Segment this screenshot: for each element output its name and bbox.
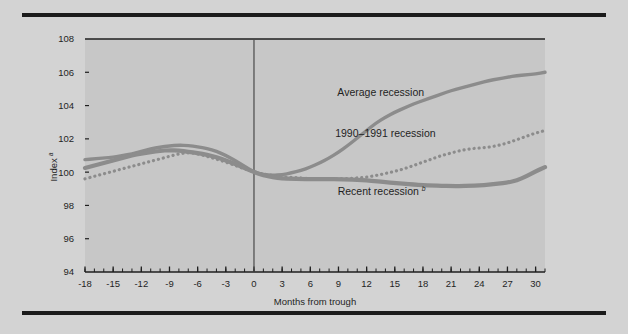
y-axis-title-superscript: a bbox=[47, 152, 54, 156]
x-tick-label: 18 bbox=[418, 278, 429, 289]
annotation-superscript: b bbox=[422, 185, 426, 192]
x-tick-label: -6 bbox=[193, 278, 201, 289]
y-tick-label: 108 bbox=[58, 33, 74, 44]
x-tick-label: 3 bbox=[279, 278, 284, 289]
x-tick-label: 30 bbox=[530, 278, 541, 289]
x-tick-label: 9 bbox=[336, 278, 341, 289]
y-axis-title-text: Indexa bbox=[47, 152, 59, 181]
recent-recession-label: Recent recessionb bbox=[338, 185, 426, 197]
x-tick-label: -3 bbox=[222, 278, 230, 289]
y-tick-label: 94 bbox=[63, 266, 74, 277]
x-axis-title-text: Months from trough bbox=[274, 296, 356, 307]
y-tick-label: 96 bbox=[63, 233, 74, 244]
y-axis-tick-labels: 949698100102104106108 bbox=[58, 33, 74, 277]
y-axis-title: Indexa bbox=[47, 152, 59, 181]
x-tick-label: 15 bbox=[390, 278, 401, 289]
x-tick-label: 24 bbox=[474, 278, 485, 289]
x-tick-label: -18 bbox=[78, 278, 92, 289]
x-tick-label: -12 bbox=[134, 278, 148, 289]
x-tick-label: 0 bbox=[251, 278, 256, 289]
y-tick-label: 102 bbox=[58, 133, 74, 144]
average-recession-label: Average recession bbox=[337, 86, 424, 98]
x-tick-label: 12 bbox=[361, 278, 372, 289]
y-tick-label: 100 bbox=[58, 167, 74, 178]
x-tick-label: 27 bbox=[502, 278, 513, 289]
chart-canvas: 949698100102104106108 -18-15-12-9-6-3036… bbox=[0, 17, 628, 311]
line-chart: 949698100102104106108 -18-15-12-9-6-3036… bbox=[0, 17, 628, 311]
bottom-rule bbox=[22, 311, 606, 315]
x-tick-label: 6 bbox=[308, 278, 313, 289]
y-tick-label: 104 bbox=[58, 100, 74, 111]
recession-1990-1991-label: 1990–1991 recession bbox=[335, 127, 436, 139]
x-tick-label: 21 bbox=[446, 278, 457, 289]
x-axis-tick-labels: -18-15-12-9-6-3036912151821242730 bbox=[78, 278, 541, 289]
plot-area-background bbox=[85, 39, 545, 272]
x-tick-label: -15 bbox=[106, 278, 120, 289]
figure-container: 949698100102104106108 -18-15-12-9-6-3036… bbox=[0, 0, 628, 334]
x-tick-label: -9 bbox=[165, 278, 173, 289]
y-tick-label: 98 bbox=[63, 200, 74, 211]
y-tick-label: 106 bbox=[58, 67, 74, 78]
